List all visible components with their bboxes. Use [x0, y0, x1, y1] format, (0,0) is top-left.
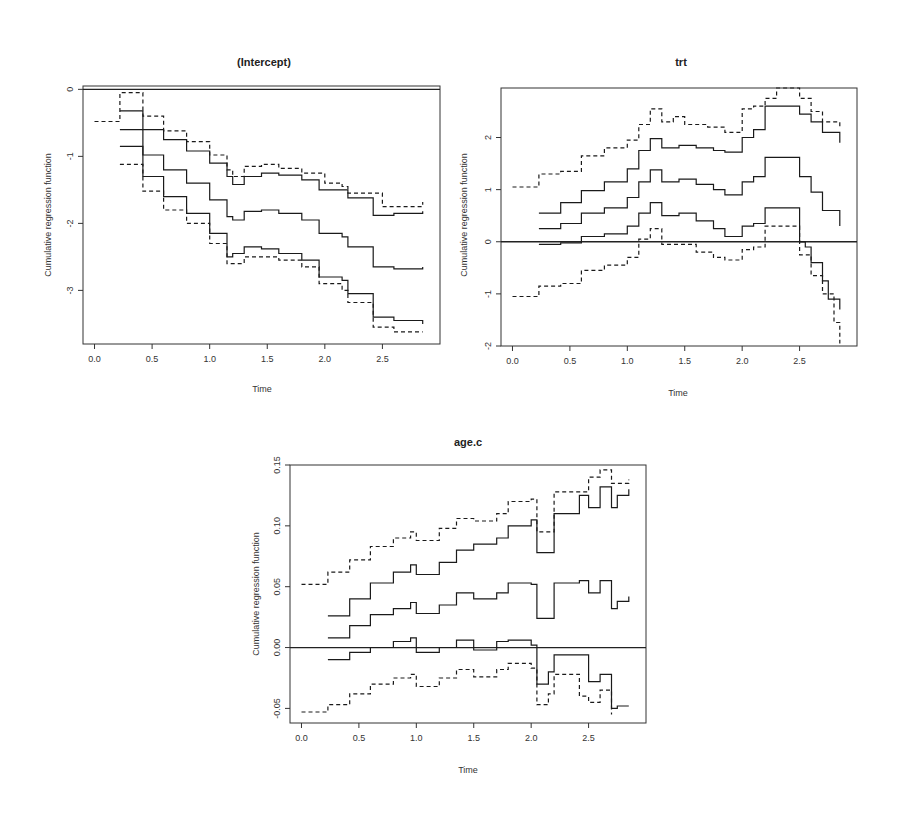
- y-tick-label: -2: [483, 342, 493, 350]
- series-lower-band: [302, 663, 612, 714]
- figure: (Intercept) Time Cumulative regression f…: [0, 0, 902, 814]
- series-estimate: [328, 581, 629, 638]
- y-tick-label: 0.00: [272, 639, 282, 657]
- x-tick-label: 1.0: [621, 356, 634, 366]
- y-axis-label: Cumulative regression function: [459, 153, 469, 277]
- series-upper-ci: [328, 487, 629, 616]
- series-estimate: [120, 130, 423, 269]
- series-lower-ci: [328, 638, 629, 709]
- y-tick-label: 2: [483, 135, 493, 140]
- plot-frame: [290, 465, 646, 723]
- x-tick-label: 2.5: [582, 733, 595, 743]
- x-tick-label: 2.0: [736, 356, 749, 366]
- series-lower-band: [120, 164, 423, 332]
- chart-title: (Intercept): [237, 56, 291, 68]
- y-tick-label: 0: [65, 87, 75, 92]
- y-tick-label: -1: [483, 290, 493, 298]
- x-tick-label: 1.5: [261, 354, 274, 364]
- y-tick-label: -3: [65, 286, 75, 294]
- x-axis-label: Time: [668, 388, 688, 398]
- series-upper-band: [302, 470, 629, 584]
- x-tick-label: 0.5: [564, 356, 577, 366]
- x-tick-label: 1.0: [410, 733, 423, 743]
- x-tick-label: 0.0: [295, 733, 308, 743]
- x-tick-label: 1.5: [678, 356, 691, 366]
- y-axis-label: Cumulative regression function: [251, 532, 261, 656]
- series-lower-band: [513, 226, 840, 343]
- series-upper-ci: [539, 106, 840, 213]
- x-tick-label: 2.0: [525, 733, 538, 743]
- x-tick-label: 2.0: [319, 354, 332, 364]
- y-tick-label: 0: [483, 239, 493, 244]
- x-tick-label: 2.5: [376, 354, 389, 364]
- panel-trt: trt Time Cumulative regression function …: [459, 56, 857, 398]
- x-tick-label: 0.5: [146, 354, 159, 364]
- x-tick-label: 2.5: [793, 356, 806, 366]
- x-axis-label: Time: [252, 384, 272, 394]
- panel-intercept: (Intercept) Time Cumulative regression f…: [43, 56, 440, 394]
- x-tick-label: 0.0: [88, 354, 101, 364]
- y-tick-label: 1: [483, 187, 493, 192]
- series-upper-band: [95, 93, 423, 207]
- series-lower-ci: [539, 203, 840, 310]
- series-upper-band: [513, 88, 840, 187]
- chart-title: age.c: [454, 436, 482, 448]
- panel-age-c: age.c Time Cumulative regression functio…: [251, 436, 646, 775]
- x-tick-label: 0.0: [506, 356, 519, 366]
- y-tick-label: 0.15: [272, 456, 282, 474]
- y-tick-label: -2: [65, 219, 75, 227]
- x-tick-label: 1.5: [467, 733, 480, 743]
- plot-frame: [501, 88, 857, 346]
- chart-title: trt: [675, 56, 687, 68]
- x-tick-label: 0.5: [353, 733, 366, 743]
- y-axis-label: Cumulative regression function: [43, 153, 53, 277]
- y-tick-label: 0.05: [272, 578, 282, 596]
- y-tick-label: -0.05: [272, 698, 282, 719]
- series-estimate: [539, 157, 840, 228]
- series-upper-ci: [120, 111, 423, 216]
- y-tick-label: 0.10: [272, 517, 282, 535]
- x-tick-label: 1.0: [203, 354, 216, 364]
- y-tick-label: -1: [65, 152, 75, 160]
- x-axis-label: Time: [458, 765, 478, 775]
